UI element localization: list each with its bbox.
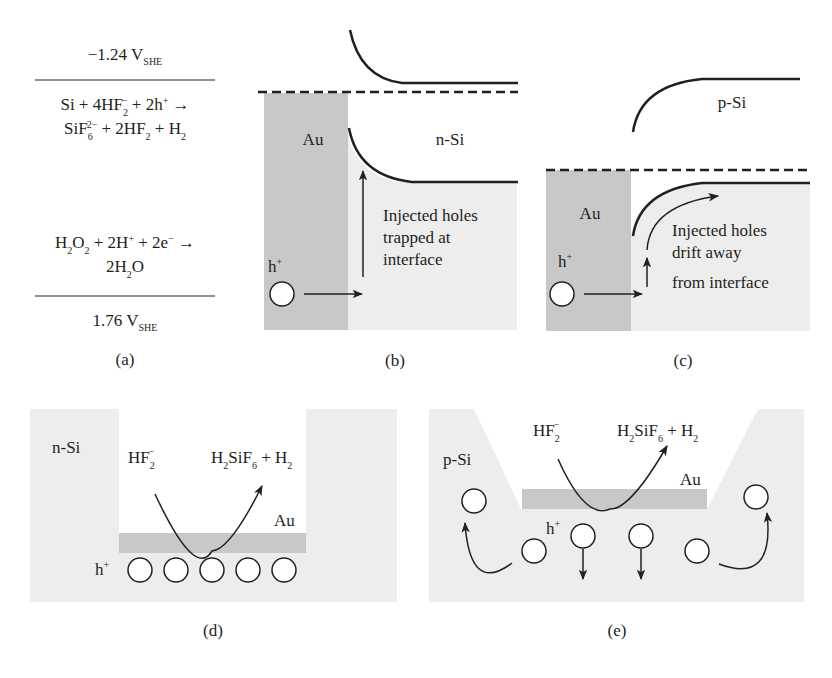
panel-c: p-Si Au h+ Injected holes drift away fro… bbox=[546, 79, 810, 370]
caption-c: (c) bbox=[674, 351, 693, 370]
product-label: H2SiF6 + H2 bbox=[211, 448, 292, 471]
reactant-label: HF2− bbox=[128, 446, 155, 471]
hole-circle bbox=[200, 558, 224, 582]
anode-reaction-line2: SiF62− + 2HF2 + H2 bbox=[64, 119, 186, 142]
caption-d: (d) bbox=[203, 621, 223, 640]
hole-circle bbox=[550, 282, 574, 306]
caption-a: (a) bbox=[116, 350, 135, 369]
p-si-label: p-Si bbox=[718, 93, 747, 112]
hole-circle bbox=[272, 558, 296, 582]
conduction-band-edge bbox=[350, 30, 518, 83]
au-label: Au bbox=[580, 204, 601, 223]
cathode-reaction-line1: H2O2 + 2H+ + 2e− → bbox=[55, 233, 195, 256]
au-block bbox=[546, 170, 631, 331]
au-label: Au bbox=[303, 130, 324, 149]
note-line-2: trapped at bbox=[383, 228, 451, 247]
caption-e: (e) bbox=[608, 621, 627, 640]
n-si-label: n-Si bbox=[52, 438, 81, 457]
reactant-label: HF2− bbox=[533, 419, 560, 444]
cathode-reaction-line2: 2H2O bbox=[106, 257, 144, 280]
anode-reaction-line1: Si + 4HF2− + 2h+ → bbox=[60, 95, 189, 118]
panel-e: p-Si HF2− H2SiF6 + H2 Au h+ (e) bbox=[429, 409, 804, 640]
p-si-label: p-Si bbox=[443, 450, 472, 469]
au-label: Au bbox=[274, 511, 295, 530]
hole-circle bbox=[685, 539, 709, 563]
caption-b: (b) bbox=[385, 351, 405, 370]
note-line-1: Injected holes bbox=[672, 221, 767, 240]
product-label: H2SiF6 + H2 bbox=[617, 421, 698, 444]
note-line-1: Injected holes bbox=[383, 206, 478, 225]
conduction-band-edge bbox=[633, 79, 800, 132]
hole-circle bbox=[270, 282, 294, 306]
hole-circle bbox=[236, 558, 260, 582]
hole-circle bbox=[522, 539, 546, 563]
note-line-2: drift away bbox=[672, 243, 742, 262]
hole-circle bbox=[462, 489, 486, 513]
panel-a: −1.24 VSHE Si + 4HF2− + 2h+ → SiF62− + 2… bbox=[35, 45, 215, 369]
n-si-label: n-Si bbox=[436, 130, 465, 149]
panel-d: n-Si HF2− H2SiF6 + H2 Au h+ (d) bbox=[30, 409, 397, 640]
panel-b: Au n-Si h+ Injected holes trapped at int… bbox=[258, 30, 518, 370]
note-line-3: from interface bbox=[672, 273, 769, 292]
hole-circle bbox=[744, 485, 768, 509]
figure-canvas: −1.24 VSHE Si + 4HF2− + 2h+ → SiF62− + 2… bbox=[0, 0, 832, 678]
au-label: Au bbox=[680, 470, 701, 489]
au-film bbox=[119, 533, 306, 553]
anode-potential: −1.24 VSHE bbox=[88, 45, 162, 67]
au-film bbox=[522, 489, 707, 509]
hole-circle bbox=[164, 558, 188, 582]
cathode-potential: 1.76 VSHE bbox=[93, 311, 158, 333]
hole-circle bbox=[128, 558, 152, 582]
note-line-3: interface bbox=[383, 250, 442, 269]
hole-circle bbox=[629, 524, 653, 548]
hole-circle bbox=[571, 524, 595, 548]
